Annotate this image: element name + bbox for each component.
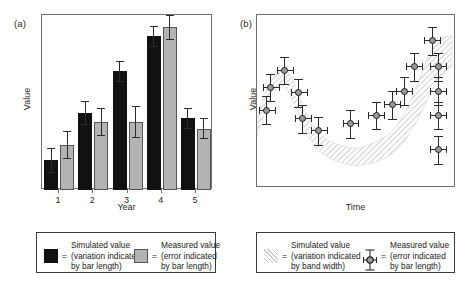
panel-a-legend: = Simulated value (variation indicated b… <box>36 232 216 273</box>
legend-a-measured-line1: (error indicated <box>161 251 220 262</box>
bar-measured-year-4 <box>163 27 177 190</box>
error-bar-measured-year-3 <box>132 106 140 138</box>
legend-a-measured-text: Measured value (error indicated by bar l… <box>161 240 220 272</box>
error-bar-measured-year-4 <box>166 15 174 40</box>
panel-b-plot-frame <box>256 14 455 187</box>
x-tick-mark-5 <box>195 189 196 193</box>
legend-a-measured-line2: by bar length) <box>161 261 220 272</box>
panel-a-tag: (a) <box>14 18 26 29</box>
bar-simulated-year-3 <box>113 71 127 190</box>
x-tick-mark-2 <box>92 189 93 193</box>
black-square-icon <box>44 249 58 263</box>
legend-b-entry-measured: = Measured value (error indicated by bar… <box>363 240 449 272</box>
grey-square-icon <box>134 249 148 263</box>
error-bar-simulated-year-2 <box>81 101 89 126</box>
error-bar-measured-year-1 <box>63 131 71 159</box>
legend-b-simulated-line2: by band width) <box>291 261 361 272</box>
panel-b-x-axis-title: Time <box>256 202 455 212</box>
panel-b-legend: = Simulated value (variation indicated b… <box>256 232 455 273</box>
legend-a-simulated-title: Simulated value <box>71 240 141 251</box>
legend-b-measured-line2: by bar length) <box>390 261 449 272</box>
legend-a-simulated-text: Simulated value (variation indicated by … <box>71 240 141 272</box>
legend-b-measured-title: Measured value <box>390 240 449 251</box>
error-bar-simulated-year-1 <box>47 148 55 173</box>
legend-a-simulated-line2: by bar length) <box>71 261 141 272</box>
x-tick-mark-1 <box>58 189 59 193</box>
legend-b-simulated-title: Simulated value <box>291 240 361 251</box>
legend-a-simulated-equals: = <box>62 251 67 261</box>
legend-b-measured-line1: (error indicated <box>390 251 449 262</box>
legend-a-simulated-line1: (variation indicated <box>71 251 141 262</box>
legend-a-measured-equals: = <box>152 251 157 261</box>
panel-a-y-axis-title: Value <box>22 69 32 129</box>
legend-b-simulated-text: Simulated value (variation indicated by … <box>291 240 361 272</box>
panel-a-x-axis-title: Year <box>41 202 212 212</box>
error-bar-simulated-year-4 <box>150 26 158 47</box>
panel-a-plot-frame <box>41 14 212 189</box>
panel-b-tag: (b) <box>240 18 252 29</box>
error-bar-simulated-year-5 <box>184 108 192 129</box>
error-bar-measured-year-2 <box>97 108 105 136</box>
legend-a-entry-simulated: = Simulated value (variation indicated b… <box>44 240 141 272</box>
x-tick-mark-3 <box>127 189 128 193</box>
point-errorbar-icon <box>363 249 377 263</box>
error-bar-simulated-year-3 <box>116 61 124 82</box>
hatched-band-icon <box>264 249 278 263</box>
bar-simulated-year-5 <box>181 118 195 190</box>
legend-b-simulated-line1: (variation indicated <box>291 251 361 262</box>
bar-simulated-year-4 <box>147 36 161 190</box>
x-tick-mark-4 <box>161 189 162 193</box>
legend-b-entry-simulated: = Simulated value (variation indicated b… <box>264 240 361 272</box>
legend-a-entry-measured: = Measured value (error indicated by bar… <box>134 240 220 272</box>
legend-b-measured-equals: = <box>381 251 386 261</box>
legend-a-measured-title: Measured value <box>161 240 220 251</box>
legend-b-measured-text: Measured value (error indicated by bar l… <box>390 240 449 272</box>
legend-b-simulated-equals: = <box>282 251 287 261</box>
error-bar-measured-year-5 <box>200 118 208 139</box>
